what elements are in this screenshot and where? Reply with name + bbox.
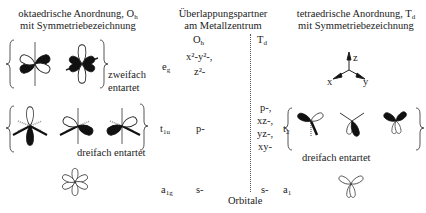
orbital-s-oh-icon (61, 168, 88, 195)
orbital-pz-icon (13, 107, 47, 145)
orbital-t2-2-icon (340, 113, 364, 137)
axes-icon (333, 52, 365, 79)
orbital-px-icon (60, 108, 94, 144)
orbital-drawings (0, 0, 426, 213)
orbital-t2-1-icon (297, 112, 325, 137)
orbital-dx2y2-icon (19, 42, 52, 86)
orbital-t2-3-icon (383, 110, 408, 134)
orbital-dz2-icon (66, 45, 98, 83)
eg-bracket (6, 40, 108, 88)
orbital-s-td-icon (338, 175, 364, 198)
orbital-py-icon (106, 108, 140, 144)
